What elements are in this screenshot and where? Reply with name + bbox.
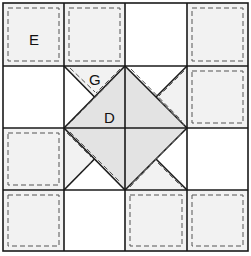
patch-r2c0	[3, 128, 64, 190]
label-g: G	[89, 71, 101, 88]
quilt-block-diagram: E G D	[0, 0, 251, 256]
patch-r0c3	[187, 3, 248, 66]
patch-r1c3	[187, 66, 248, 128]
label-e: E	[29, 31, 39, 48]
label-d: D	[104, 109, 115, 126]
patch-r0c1	[64, 3, 125, 66]
patch-r3c0	[3, 190, 64, 251]
patch-r3c3	[187, 190, 248, 251]
patch-r3c2	[125, 190, 187, 251]
